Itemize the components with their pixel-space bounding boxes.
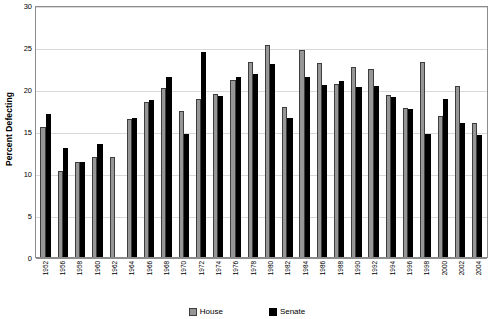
- bar-senate-1998: [425, 134, 430, 257]
- bar-senate-1990: [356, 87, 361, 257]
- bar-group: [279, 7, 296, 257]
- bar-group: [365, 7, 382, 257]
- x-tick-label: 1976: [232, 261, 239, 275]
- bar-group: [158, 7, 175, 257]
- bar-group: [451, 7, 468, 257]
- bar-senate-1976: [236, 77, 241, 257]
- bar-senate-2004: [477, 135, 482, 257]
- x-tick: 1982: [279, 259, 296, 295]
- x-tick-label: 1980: [267, 261, 274, 275]
- x-tick-label: 1978: [249, 261, 256, 275]
- bar-senate-1994: [391, 97, 396, 257]
- x-tick: 2004: [470, 259, 487, 295]
- defection-bar-chart: Percent Defecting 051015202530 195219561…: [0, 0, 494, 319]
- x-tick: 1988: [331, 259, 348, 295]
- bar-group: [348, 7, 365, 257]
- bar-group: [313, 7, 330, 257]
- x-tick-label: 1982: [284, 261, 291, 275]
- bar-senate-1958: [80, 162, 85, 257]
- x-tick-label: 1998: [423, 261, 430, 275]
- bar-senate-1972: [201, 52, 206, 257]
- bar-group: [54, 7, 71, 257]
- x-tick-label: 1968: [163, 261, 170, 275]
- bar-group: [192, 7, 209, 257]
- x-tick-label: 1962: [111, 261, 118, 275]
- bar-series-container: [36, 7, 487, 257]
- x-tick: 1956: [53, 259, 70, 295]
- plot-area: [35, 6, 488, 258]
- legend-label: House: [200, 307, 223, 316]
- x-tick: 1958: [71, 259, 88, 295]
- x-axis-tick-labels: 1952195619581960196219641966196819701972…: [35, 259, 488, 295]
- bar-group: [37, 7, 54, 257]
- bar-group: [469, 7, 486, 257]
- bar-senate-1970: [184, 134, 189, 257]
- x-tick: 1980: [261, 259, 278, 295]
- x-tick-label: 1952: [41, 261, 48, 275]
- bar-senate-1980: [270, 64, 275, 257]
- x-tick: 1968: [157, 259, 174, 295]
- x-tick-label: 1960: [93, 261, 100, 275]
- x-tick-label: 2000: [440, 261, 447, 275]
- x-tick: 1952: [36, 259, 53, 295]
- bar-senate-1984: [305, 77, 310, 257]
- x-tick: 1994: [383, 259, 400, 295]
- x-tick-label: 1970: [180, 261, 187, 275]
- y-axis-title-label: Percent Defecting: [4, 92, 14, 166]
- y-axis-tick-labels: 051015202530: [14, 6, 34, 258]
- x-tick: 1976: [227, 259, 244, 295]
- bar-group: [210, 7, 227, 257]
- x-tick: 1966: [140, 259, 157, 295]
- x-tick: 1996: [400, 259, 417, 295]
- x-tick: 1990: [348, 259, 365, 295]
- x-tick-label: 1958: [76, 261, 83, 275]
- x-tick-label: 2002: [457, 261, 464, 275]
- bar-senate-1974: [218, 96, 223, 257]
- y-tick-label: 5: [28, 212, 32, 221]
- bar-senate-1986: [322, 85, 327, 257]
- bar-senate-1952: [46, 114, 51, 257]
- x-tick-label: 1964: [128, 261, 135, 275]
- x-tick: 1992: [366, 259, 383, 295]
- x-tick: 1974: [209, 259, 226, 295]
- bar-group: [89, 7, 106, 257]
- senate-swatch-icon: [269, 308, 277, 316]
- bar-senate-1978: [253, 74, 258, 257]
- bar-group: [244, 7, 261, 257]
- bar-group: [434, 7, 451, 257]
- x-tick: 1984: [296, 259, 313, 295]
- x-tick-label: 1966: [145, 261, 152, 275]
- chart-legend: HouseSenate: [0, 307, 494, 316]
- bar-group: [106, 7, 123, 257]
- x-tick-label: 1986: [319, 261, 326, 275]
- bar-senate-1956: [63, 148, 68, 257]
- bar-group: [331, 7, 348, 257]
- x-tick: 2000: [435, 259, 452, 295]
- bar-senate-1988: [339, 81, 344, 257]
- x-tick: 1964: [123, 259, 140, 295]
- bar-group: [227, 7, 244, 257]
- x-tick: 1998: [418, 259, 435, 295]
- bar-senate-2002: [460, 123, 465, 257]
- bar-senate-1968: [166, 77, 171, 257]
- x-tick-label: 1996: [405, 261, 412, 275]
- bar-senate-1960: [97, 144, 102, 257]
- bar-house-1962: [110, 157, 115, 257]
- y-tick-label: 10: [24, 170, 32, 179]
- x-tick-label: 1974: [215, 261, 222, 275]
- x-tick-label: 1972: [197, 261, 204, 275]
- bar-group: [72, 7, 89, 257]
- bar-senate-2000: [443, 99, 448, 257]
- x-tick-label: 1994: [388, 261, 395, 275]
- bar-group: [382, 7, 399, 257]
- x-tick-label: 1984: [301, 261, 308, 275]
- bar-senate-1996: [408, 109, 413, 257]
- x-tick-label: 1956: [59, 261, 66, 275]
- y-tick-label: 15: [24, 128, 32, 137]
- x-tick: 1986: [314, 259, 331, 295]
- y-tick-label: 30: [24, 2, 32, 11]
- legend-item-house: House: [189, 307, 223, 316]
- x-tick-label: 1988: [336, 261, 343, 275]
- x-tick: 1972: [192, 259, 209, 295]
- x-tick: 1960: [88, 259, 105, 295]
